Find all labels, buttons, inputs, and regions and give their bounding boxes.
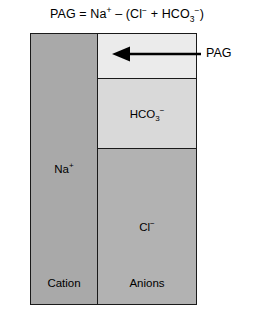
- pag-callout-label: PAG: [206, 46, 231, 61]
- column-anions: HCO3− Cl− Anions: [98, 34, 196, 304]
- formula-prefix: PAG = Na: [50, 7, 107, 21]
- pag-callout-arrow-icon: [110, 42, 202, 66]
- segment-na-label: Na+: [31, 163, 97, 176]
- formula-close-paren: ): [200, 7, 204, 21]
- segment-hco3: HCO3−: [98, 78, 196, 148]
- segment-na: Na+ Cation: [31, 34, 97, 304]
- formula-plus: + HCO: [147, 7, 190, 21]
- segment-na-label-text: Na: [54, 163, 69, 175]
- column-cation: Na+ Cation: [31, 34, 98, 304]
- axis-label-anions: Anions: [98, 277, 196, 290]
- stacked-bar-plot: Na+ Cation HCO3− Cl− Anions: [30, 33, 197, 305]
- segment-hco3-label-subscript: 3: [155, 113, 159, 122]
- segment-hco3-label: HCO3−: [98, 107, 196, 120]
- segment-hco3-label-text: HCO: [130, 107, 156, 119]
- segment-hco3-label-charge: −: [160, 105, 165, 114]
- formula-hco3-subscript: 3: [190, 14, 195, 24]
- formula-minus: – (Cl: [112, 7, 142, 21]
- segment-cl-label-text: Cl: [139, 220, 150, 232]
- segment-cl-label-charge: −: [150, 218, 155, 227]
- segment-cl-label: Cl−: [98, 220, 196, 233]
- axis-label-cation: Cation: [31, 277, 97, 290]
- segment-cl: Cl− Anions: [98, 148, 196, 304]
- formula-caption: PAG = Na+ – (Cl− + HCO3−): [0, 6, 254, 22]
- segment-na-label-charge: +: [69, 161, 74, 170]
- pag-figure: PAG = Na+ – (Cl− + HCO3−) Na+ Cation HCO…: [0, 0, 254, 325]
